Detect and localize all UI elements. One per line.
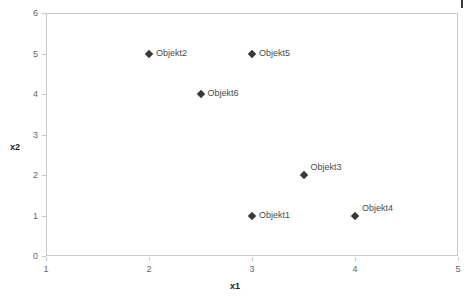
y-tick-label: 3 <box>18 130 38 140</box>
x-tick-mark <box>355 257 356 261</box>
x-tick-mark <box>46 257 47 261</box>
x-tick-label: 4 <box>343 264 367 274</box>
data-point-label: Objekt6 <box>208 88 239 99</box>
y-tick-label: 1 <box>18 211 38 221</box>
y-tick-mark <box>42 54 46 55</box>
data-point-label: Objekt2 <box>156 48 187 59</box>
y-tick-mark <box>42 216 46 217</box>
x-tick-mark <box>458 257 459 261</box>
y-axis-title: x2 <box>10 142 20 152</box>
y-tick-mark <box>42 13 46 14</box>
y-tick-label: 4 <box>18 89 38 99</box>
y-tick-label: 5 <box>18 49 38 59</box>
x-tick-label: 2 <box>137 264 161 274</box>
data-point-label: Objekt5 <box>259 48 290 59</box>
y-tick-label: 0 <box>18 251 38 261</box>
y-tick-label: 6 <box>18 8 38 18</box>
data-point-label: Objekt1 <box>259 210 290 221</box>
x-tick-label: 3 <box>240 264 264 274</box>
data-point-label: Objekt3 <box>311 162 342 173</box>
y-tick-mark <box>42 94 46 95</box>
corner-artifact <box>461 0 463 8</box>
x-tick-label: 1 <box>34 264 58 274</box>
x-tick-mark <box>149 257 150 261</box>
scatter-chart: 0123456 12345 Objekt2Objekt5Objekt6Objek… <box>0 0 470 296</box>
x-tick-mark <box>252 257 253 261</box>
x-tick-label: 5 <box>446 264 470 274</box>
y-tick-mark <box>42 135 46 136</box>
x-axis-title: x1 <box>0 281 470 291</box>
y-tick-label: 2 <box>18 170 38 180</box>
data-point-label: Objekt4 <box>362 203 393 214</box>
y-tick-mark <box>42 175 46 176</box>
